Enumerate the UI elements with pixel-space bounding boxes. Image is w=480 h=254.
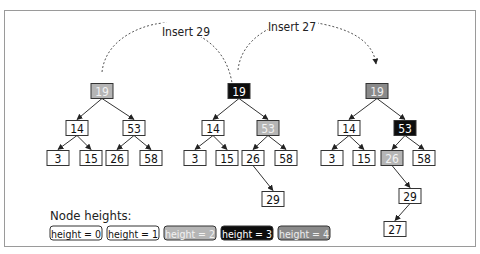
node-value: 15: [84, 152, 98, 166]
tree-node-29: 29: [262, 192, 284, 208]
tree-node-15: 15: [216, 151, 238, 167]
tree-node-19: 19: [228, 84, 250, 100]
legend-label: height = 2: [165, 228, 215, 240]
node-value: 58: [279, 152, 293, 166]
tree-node-14: 14: [66, 121, 88, 137]
tree-node-53: 53: [257, 121, 279, 137]
tree-node-3: 3: [321, 151, 343, 167]
tree-node-58: 58: [413, 151, 435, 167]
tree-node-14: 14: [338, 121, 360, 137]
tree-node-26: 26: [242, 151, 264, 167]
legend-label: height = 0: [51, 228, 101, 240]
node-value: 19: [370, 85, 384, 99]
node-value: 26: [385, 152, 399, 166]
node-value: 53: [261, 122, 275, 136]
node-value: 29: [266, 193, 280, 207]
legend-item-height-0: height = 0: [50, 226, 102, 240]
node-value: 15: [357, 152, 371, 166]
legend-item-height-1: height = 1: [107, 226, 159, 240]
tree-node-15: 15: [80, 151, 102, 167]
tree-node-27: 27: [384, 222, 406, 238]
node-value: 53: [127, 122, 141, 136]
node-value: 58: [417, 152, 431, 166]
node-value: 58: [144, 152, 158, 166]
tree-node-26: 26: [106, 151, 128, 167]
node-value: 53: [398, 122, 412, 136]
node-value: 26: [246, 152, 260, 166]
tree-node-19: 19: [366, 84, 388, 100]
tree-node-3: 3: [47, 151, 69, 167]
tree-node-29: 29: [399, 189, 421, 205]
node-value: 19: [232, 85, 246, 99]
node-value: 3: [329, 152, 336, 166]
tree-node-58: 58: [275, 151, 297, 167]
tree-node-14: 14: [202, 121, 224, 137]
legend-title: Node heights:: [50, 208, 132, 223]
tree-node-15: 15: [353, 151, 375, 167]
node-value: 14: [70, 122, 84, 136]
tree-node-3: 3: [184, 151, 206, 167]
legend-label: height = 4: [279, 228, 329, 240]
node-value: 14: [206, 122, 220, 136]
legend-item-height-3: height = 3: [221, 226, 273, 240]
node-value: 27: [388, 223, 402, 237]
legend-item-height-4: height = 4: [278, 226, 330, 240]
insert-label: Insert 29: [162, 25, 210, 39]
legend-label: height = 1: [108, 228, 158, 240]
node-value: 3: [55, 152, 62, 166]
tree-node-58: 58: [140, 151, 162, 167]
node-value: 19: [95, 85, 109, 99]
insert-label: Insert 27: [268, 20, 316, 34]
tree-node-53: 53: [394, 121, 416, 137]
node-value: 3: [192, 152, 199, 166]
node-value: 14: [342, 122, 356, 136]
legend-label: height = 3: [222, 228, 272, 240]
tree-node-53: 53: [123, 121, 145, 137]
tree-node-19: 19: [91, 84, 113, 100]
legend-items: height = 0height = 1height = 2height = 3…: [50, 226, 330, 240]
avl-insertion-diagram: Insert 29Insert 27 191453315265819145331…: [0, 0, 480, 254]
node-value: 15: [220, 152, 234, 166]
legend-item-height-2: height = 2: [164, 226, 216, 240]
node-value: 29: [403, 190, 417, 204]
node-value: 26: [110, 152, 124, 166]
tree-node-26: 26: [381, 151, 403, 167]
